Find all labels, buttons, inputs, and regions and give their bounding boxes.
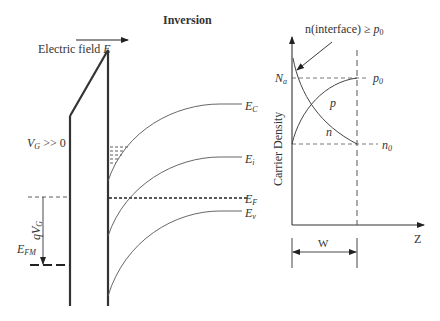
ef-label: EF xyxy=(245,193,257,207)
p0-label: p0 xyxy=(373,72,383,86)
ei-curve xyxy=(108,157,242,236)
na-label: Na xyxy=(275,72,287,86)
ev-label: Ev xyxy=(245,207,256,221)
efm-label: EFM xyxy=(17,243,36,257)
oxide-layer xyxy=(70,50,108,306)
ev-curve xyxy=(108,211,242,296)
inversion-electrons-hatch xyxy=(110,147,128,163)
annotation-arrow xyxy=(297,42,332,70)
width-label: W xyxy=(318,238,328,249)
ec-curve xyxy=(108,104,242,181)
interface-annotation: n(interface) ≥ p0 xyxy=(305,23,384,37)
qvg-label: qVG xyxy=(30,221,44,240)
diagram-title: Inversion xyxy=(163,14,212,26)
p-curve-label: p xyxy=(330,97,336,109)
y-axis-label: Carrier Density xyxy=(272,112,284,186)
n-curve xyxy=(293,58,357,144)
electric-field-label: Electric field E xyxy=(38,43,111,55)
ei-label: Ei xyxy=(245,153,255,167)
gate-voltage-label: VG >> 0 xyxy=(27,137,66,151)
n-curve-label: n xyxy=(326,126,332,138)
x-axis-label: Z xyxy=(414,233,421,245)
n0-label: n0 xyxy=(382,139,392,153)
ec-label: EC xyxy=(245,100,258,114)
